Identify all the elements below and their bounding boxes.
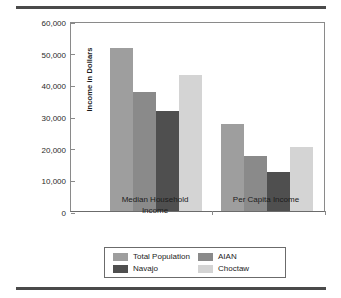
y-axis-tick-label: 60,000 bbox=[42, 19, 71, 28]
y-axis-tick: 0 bbox=[62, 209, 71, 218]
y-axis-tick-label: 10,000 bbox=[42, 177, 71, 186]
legend-label: AIAN bbox=[218, 252, 237, 261]
legend-swatch bbox=[198, 265, 213, 273]
y-axis-tick: 10,000 bbox=[42, 177, 71, 186]
y-axis-tick: 30,000 bbox=[42, 114, 71, 123]
y-axis-tick-label: 30,000 bbox=[42, 114, 71, 123]
x-axis-label-line: Income bbox=[95, 205, 215, 216]
x-axis-label: Median HouseholdIncome bbox=[95, 194, 215, 216]
y-axis-tick: 20,000 bbox=[42, 145, 71, 154]
legend-label: Choctaw bbox=[218, 264, 249, 273]
top-divider-rule bbox=[16, 6, 326, 9]
y-axis-tick-label: 20,000 bbox=[42, 145, 71, 154]
legend-entry: Choctaw bbox=[198, 264, 279, 273]
legend-entry: Navajo bbox=[113, 264, 194, 273]
legend-swatch bbox=[198, 253, 213, 261]
x-axis-label-line: Per Capita Income bbox=[206, 194, 326, 205]
bar bbox=[110, 48, 133, 211]
y-axis-tick-label: 50,000 bbox=[42, 50, 71, 59]
plot-area: Income in Dollars 010,00020,00030,00040,… bbox=[70, 22, 325, 212]
bars-layer bbox=[71, 23, 324, 211]
bottom-divider-rule bbox=[16, 287, 326, 290]
x-axis-label-line: Median Household bbox=[95, 194, 215, 205]
y-axis-tick-mark bbox=[71, 213, 75, 214]
y-axis-tick: 60,000 bbox=[42, 19, 71, 28]
bar bbox=[267, 172, 290, 211]
legend-swatch bbox=[113, 265, 128, 273]
bar-chart-figure: Income in Dollars 010,00020,00030,00040,… bbox=[0, 0, 341, 298]
legend-label: Total Population bbox=[133, 252, 190, 261]
x-axis-label: Per Capita Income bbox=[206, 194, 326, 205]
y-axis-tick-label: 40,000 bbox=[42, 82, 71, 91]
legend-entry: Total Population bbox=[113, 252, 194, 261]
x-axis-tick-mark bbox=[325, 211, 326, 215]
bar bbox=[179, 75, 202, 211]
chart-legend: Total PopulationAIANNavajoChoctaw bbox=[104, 247, 286, 278]
y-axis-tick: 40,000 bbox=[42, 82, 71, 91]
y-axis-tick: 50,000 bbox=[42, 50, 71, 59]
y-axis-tick-label: 0 bbox=[62, 209, 71, 218]
legend-label: Navajo bbox=[133, 264, 158, 273]
legend-entry: AIAN bbox=[198, 252, 279, 261]
legend-swatch bbox=[113, 253, 128, 261]
legend-grid: Total PopulationAIANNavajoChoctaw bbox=[113, 252, 279, 273]
